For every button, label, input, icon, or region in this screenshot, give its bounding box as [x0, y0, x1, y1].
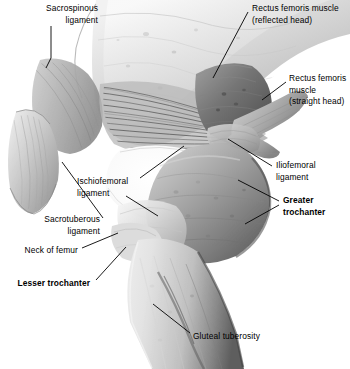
anatomy-figure: Sacrospinous ligament Rectus femoris mus… [0, 0, 350, 369]
label-sacrospinous-ligament: Sacrospinous ligament [46, 3, 98, 26]
label-rectus-femoris-straight-head: Rectus femoris muscle (straight head) [289, 73, 350, 108]
label-iliofemoral-ligament: Iliofemoral ligament [276, 160, 350, 183]
label-greater-trochanter: Greater trochanter [283, 195, 350, 218]
label-lesser-trochanter: Lesser trochanter [18, 278, 90, 290]
label-sacrotuberous-ligament: Sacrotuberous ligament [44, 214, 100, 237]
label-ischiofemoral-ligament: Ischiofemoral ligament [77, 176, 149, 199]
label-gluteal-tuberosity: Gluteal tuberosity [193, 331, 260, 343]
label-neck-of-femur: Neck of femur [25, 245, 78, 257]
hip-joint-illustration [0, 0, 350, 369]
label-rectus-femoris-reflected-head: Rectus femoris muscle (reflected head) [252, 3, 339, 26]
